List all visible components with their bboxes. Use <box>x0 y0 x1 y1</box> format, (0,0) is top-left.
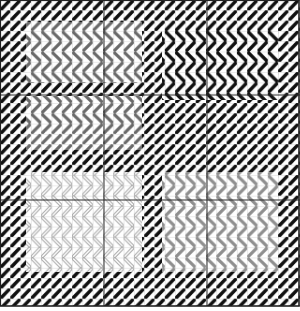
region-right-bottom-chevrons <box>162 172 278 272</box>
region-left-mid-chevrons <box>26 96 142 132</box>
region-left-black-band <box>26 82 142 96</box>
region-right-border <box>278 0 300 306</box>
region-center-divider <box>142 0 162 306</box>
stitch-chart-canvas <box>0 0 300 311</box>
stitch-regions <box>0 0 300 306</box>
region-left-mid-diagonal <box>26 132 142 150</box>
region-right-top-chevrons <box>162 22 278 100</box>
region-left-bottom-chevrons <box>26 172 142 272</box>
stitch-chart: Needlepoint stitch chart <box>0 0 300 311</box>
region-right-black-diagonal <box>162 100 278 172</box>
region-left-border <box>0 0 26 306</box>
region-left-black-diagonal <box>26 150 142 172</box>
region-left-top-chevrons <box>26 22 142 82</box>
